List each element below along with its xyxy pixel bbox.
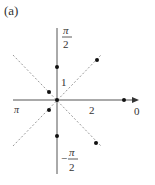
data-points xyxy=(47,58,126,145)
bottom-label-denominator: 2 xyxy=(69,161,75,173)
point xyxy=(47,90,51,94)
point xyxy=(122,98,126,102)
axis-arrow-icon xyxy=(132,97,139,103)
bottom-label-numerator: π xyxy=(69,146,75,158)
panel-label: (a) xyxy=(4,3,18,18)
point xyxy=(47,108,51,112)
top-label-numerator: π xyxy=(63,24,69,36)
point xyxy=(55,134,59,138)
point xyxy=(95,58,99,62)
left-label-pi: π xyxy=(14,104,20,115)
point xyxy=(55,65,59,69)
right-label-zero: 0 xyxy=(134,105,140,117)
bottom-label-sign: − xyxy=(61,152,67,164)
radial-tick-2: 2 xyxy=(89,104,95,116)
point-origin xyxy=(55,98,59,102)
point xyxy=(94,141,98,145)
top-label-denominator: 2 xyxy=(63,38,69,50)
polar-diagram: (a) π 2 1 2 π 0 − π 2 xyxy=(0,0,155,185)
radial-tick-1: 1 xyxy=(61,76,67,88)
